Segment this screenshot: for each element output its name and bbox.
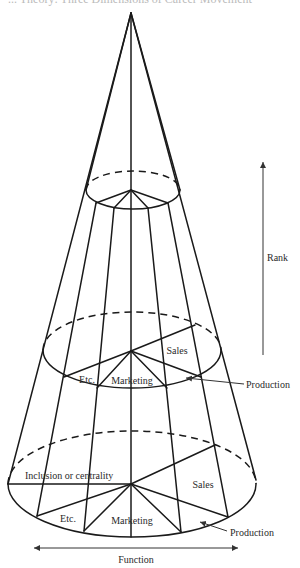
upper-marketing-label: Marketing (111, 375, 153, 386)
cone-silhouette (8, 13, 256, 537)
rank-label: Rank (267, 252, 288, 263)
function-axis: Function (34, 548, 238, 565)
upper-production-label: Production (246, 379, 290, 390)
upper-etc-label: Etc. (79, 374, 95, 385)
lower-sales-label: Sales (192, 479, 213, 490)
lower-marketing-label: Marketing (111, 515, 153, 526)
function-label: Function (118, 554, 154, 565)
lower-production-label: Production (230, 527, 274, 538)
inclusion-label: Inclusion or centrality (25, 470, 113, 481)
cut-off-caption: ... Theory: Three Dimensions of Career M… (8, 0, 252, 6)
rank-axis: Rank (263, 162, 288, 355)
upper-production-pointer-icon (186, 378, 244, 384)
lower-etc-label: Etc. (60, 513, 76, 524)
career-cone-diagram: ... Theory: Three Dimensions of Career M… (0, 0, 300, 568)
top-ellipse (86, 171, 180, 209)
upper-sales-label: Sales (166, 345, 187, 356)
